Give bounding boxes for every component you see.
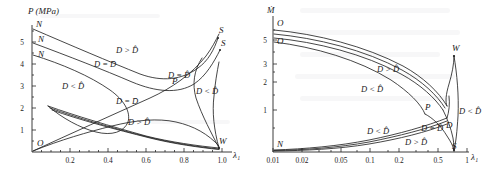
x-tick-label-right: 1 [465,156,469,165]
chart-panel-left: P (MPa) λ₁ 1 2 3 4 5 0.2 0.4 0.6 0.8 1.0… [0,0,248,180]
figure-root: P (MPa) λ₁ 1 2 3 4 5 0.2 0.4 0.6 0.8 1.0… [0,0,495,180]
x-ticks-left [42,148,223,152]
x-tick-label-left: 0.4 [103,156,113,165]
y-tick-label-left: 3 [20,82,24,91]
point-label-S: S [219,25,224,35]
right-plot-svg: Ṁ λ₁ 1 2 3 5 0.01 0.02 0.05 0.1 0.2 0.5… [247,0,495,180]
region-label: D = D̂ [420,123,444,133]
x-tick-label-right: 0.1 [365,156,375,165]
y-tick-label-right: 2 [263,78,267,87]
point-label-O: O [37,138,44,148]
region-label: D > D̂ [404,137,428,147]
curve-cusp-right [454,56,458,150]
left-plot-svg: P (MPa) λ₁ 1 2 3 4 5 0.2 0.4 0.6 0.8 1.0… [0,0,248,180]
point-label-S: S [452,141,457,151]
point-dot-S2 [219,49,221,51]
region-label: D > D̂ [127,117,151,127]
x-axis-title-right: λ₁ [470,152,478,162]
y-tick-label-left: 2 [20,104,24,113]
point-label-P: P [424,102,431,112]
point-label-D: D [445,120,453,130]
curve-o-bundle-2 [274,34,445,108]
point-dot-W [218,147,220,149]
point-label-N: N [37,34,45,44]
point-label-O: O [277,36,284,46]
y-tick-label-left: 1 [20,126,24,135]
point-label-W: W [219,136,228,146]
region-label: D < D̂ [61,81,85,91]
region-label: D = D̄ [115,96,139,106]
region-label: D < D̂ [458,106,482,116]
y-tick-label-right: 3 [263,60,267,69]
x-tick-label-right: 0.02 [296,156,309,165]
region-label: D < D̂ [195,86,219,96]
point-dot-W [453,55,455,57]
curve-cusp-w [446,56,454,106]
point-label-W: W [452,43,461,53]
region-label: D < D̂ [360,84,384,94]
chart-panel-right: Ṁ λ₁ 1 2 3 5 0.01 0.02 0.05 0.1 0.2 0.5… [247,0,495,180]
y-axis-title-right: Ṁ [266,5,275,15]
y-tick-label-right: 1 [263,106,267,115]
y-tick-label-left: 4 [20,60,24,69]
region-label: D = D̂ [167,70,191,80]
y-tick-label-right: 5 [263,36,267,45]
x-tick-label-left: 0.6 [141,156,151,165]
point-label-S: S [221,38,226,48]
curve-w-bundle-2 [50,108,219,149]
x-tick-label-right: 0.05 [335,156,348,165]
y-axis-title-left: P (MPa) [27,6,59,16]
x-tick-label-left: 0.8 [179,156,189,165]
curve-o-bundle-3 [274,38,443,110]
x-tick-label-right: 0.5 [433,156,443,165]
point-dot-S1 [217,37,219,39]
x-tick-label-left: 1.0 [217,156,227,165]
y-ticks-left [32,31,36,141]
x-tick-label-right: 0.01 [267,156,280,165]
region-label: D > D̂ [376,64,400,74]
point-label-N: N [37,49,45,59]
region-label: D > D̂ [115,45,139,55]
point-label-O: O [277,18,284,28]
x-tick-label-left: 0.2 [65,156,75,165]
x-axis-title-left: λ₁ [232,150,240,160]
x-tick-label-right: 0.2 [394,156,404,165]
region-label: D < D̂ [366,126,390,136]
point-label-N: N [35,19,43,29]
curve-cusp-pocket [447,96,449,118]
curve-w-bundle-1 [48,106,219,148]
point-label-N: N [276,139,284,149]
y-tick-label-left: 5 [20,38,24,47]
region-label: D = D̄ [93,59,117,69]
